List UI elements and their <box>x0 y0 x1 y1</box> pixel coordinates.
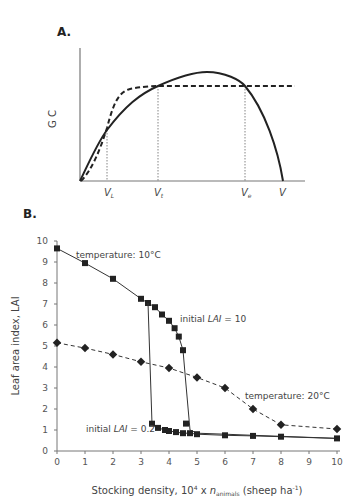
panel-a: A. G C VL Vt Ve V <box>47 25 305 199</box>
dashed-sigmoid-curve <box>81 86 295 181</box>
svg-text:9: 9 <box>42 257 48 267</box>
svg-text:3: 3 <box>42 383 48 393</box>
svg-text:6: 6 <box>222 457 228 467</box>
panel-b-label: B. <box>23 207 37 221</box>
marker-v: V <box>279 187 287 198</box>
svg-text:5: 5 <box>194 457 200 467</box>
panel-a-label: A. <box>57 25 71 39</box>
panel-a-x-markers: VL Vt Ve V <box>104 187 287 199</box>
svg-text:10: 10 <box>331 457 343 467</box>
marker-vl: VL <box>104 187 114 199</box>
svg-text:8: 8 <box>42 278 48 288</box>
panel-b-x-label: Stocking density, 104 x nanimals (sheep … <box>92 484 303 497</box>
svg-text:1: 1 <box>42 425 48 435</box>
series-temperature-10c-initial-lai-10 <box>54 245 337 438</box>
svg-text:2: 2 <box>110 457 116 467</box>
svg-text:2: 2 <box>42 404 48 414</box>
panel-b-x-tick-labels: 0 1 2 3 4 5 6 7 8 9 10 <box>54 457 343 467</box>
svg-text:1: 1 <box>82 457 88 467</box>
annotation-temperature-20c: temperature: 20°C <box>245 391 330 401</box>
annotation-initial-lai-10: initial LAI = 10 <box>180 314 246 324</box>
annotation-temperature-10c: temperature: 10°C <box>76 250 161 260</box>
marker-vt: Vt <box>154 187 164 199</box>
svg-text:9: 9 <box>306 457 312 467</box>
svg-text:8: 8 <box>278 457 284 467</box>
series-temperature-20c <box>53 339 341 434</box>
panel-b-y-tick-labels: 0 1 2 3 4 5 6 7 8 9 10 <box>37 236 49 456</box>
svg-text:4: 4 <box>42 362 48 372</box>
svg-text:7: 7 <box>250 457 256 467</box>
svg-text:5: 5 <box>42 341 48 351</box>
panel-b: B. 0 1 2 3 4 5 6 7 8 9 10 <box>10 207 343 497</box>
figure: A. G C VL Vt Ve V B. <box>0 0 361 501</box>
marker-ve: Ve <box>241 187 252 199</box>
solid-hump-curve <box>80 72 283 181</box>
svg-text:3: 3 <box>138 457 144 467</box>
annotation-initial-lai-0-2: initial LAI = 0.2 <box>86 424 155 434</box>
svg-text:0: 0 <box>54 457 60 467</box>
panel-a-y-label: G C <box>47 110 58 128</box>
panel-b-y-label: Leaf area index, LAI <box>10 296 21 395</box>
svg-text:7: 7 <box>42 299 48 309</box>
svg-text:4: 4 <box>166 457 172 467</box>
svg-text:10: 10 <box>37 236 49 246</box>
svg-text:6: 6 <box>42 320 48 330</box>
svg-text:0: 0 <box>42 446 48 456</box>
